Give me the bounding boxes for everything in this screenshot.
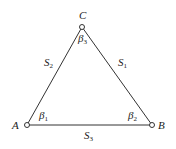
vertex-a-circle-icon: [25, 123, 30, 128]
angle-beta2-label: β2: [127, 109, 137, 123]
side-s1-label: S1: [118, 56, 128, 70]
vertex-c-circle-icon: [80, 25, 85, 30]
side-s3-label: S3: [84, 129, 94, 143]
angle-beta1-label: β1: [38, 109, 48, 123]
side-s2-label: S2: [44, 56, 54, 70]
triangle-diagram: C A B β3 β1 β2 S2 S1 S3: [0, 0, 176, 149]
vertex-a-label: A: [11, 119, 19, 131]
vertex-c-label: C: [79, 9, 87, 21]
angle-beta3-label: β3: [77, 32, 87, 46]
vertex-b-label: B: [158, 119, 165, 131]
vertex-b-circle-icon: [150, 123, 155, 128]
side-s1-line: [82, 27, 152, 125]
side-s2-line: [27, 27, 82, 125]
